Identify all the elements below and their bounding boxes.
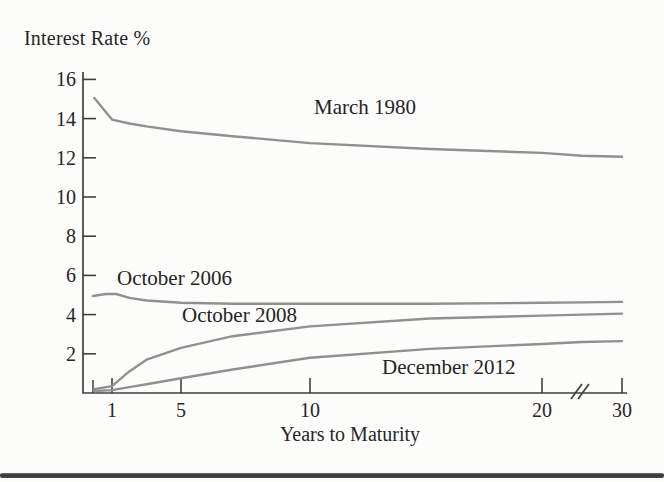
- curve-october-2008: [94, 314, 622, 390]
- y-tick-label-12: 12: [28, 145, 76, 171]
- yield-curve-chart: Interest Rate % March 1980 October 2006 …: [0, 0, 664, 482]
- x-tick-label-20: 20: [520, 397, 564, 423]
- x-tick-label-5: 5: [159, 397, 203, 423]
- y-tick-label-16: 16: [28, 66, 76, 92]
- y-tick-label-14: 14: [28, 106, 76, 132]
- curve-october-2006: [93, 294, 622, 304]
- y-tick-label-10: 10: [28, 184, 76, 210]
- curve-december-2012: [94, 341, 622, 391]
- y-tick-label-8: 8: [28, 223, 76, 249]
- series-label-october-2008: October 2008: [182, 303, 297, 328]
- series-label-december-2012: December 2012: [382, 355, 516, 380]
- series-label-october-2006: October 2006: [117, 266, 232, 291]
- y-tick-label-2: 2: [28, 341, 76, 367]
- x-tick-label-10: 10: [288, 397, 332, 423]
- x-tick-label-30: 30: [600, 397, 644, 423]
- x-tick-label-1: 1: [90, 397, 134, 423]
- bottom-page-rule: [0, 473, 664, 478]
- y-tick-label-4: 4: [28, 302, 76, 328]
- x-axis-title: Years to Maturity: [280, 423, 420, 446]
- y-tick-label-6: 6: [28, 262, 76, 288]
- series-label-march-1980: March 1980: [314, 95, 416, 120]
